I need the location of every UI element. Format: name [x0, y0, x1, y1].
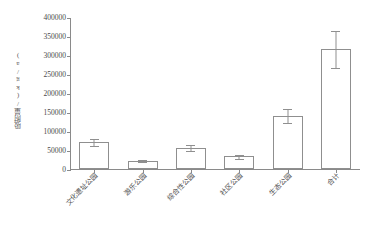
- y-axis-tick-mark: [67, 132, 71, 133]
- error-bar-cap-upper: [90, 139, 99, 140]
- x-axis-category-label: 文化遗址公园: [9, 172, 100, 230]
- error-bar-cap-lower: [138, 162, 147, 163]
- x-axis-category-labels: 文化遗址公园游乐公园综合性公园社区公园生态公园合计: [70, 172, 360, 228]
- error-bar: [235, 155, 244, 160]
- y-axis-tick-mark: [67, 56, 71, 57]
- error-bar-cap-upper: [138, 160, 147, 161]
- y-axis-tick-mark: [67, 37, 71, 38]
- y-axis-tick-label: 150000: [44, 109, 67, 117]
- error-bar-line: [287, 109, 288, 123]
- error-bar-cap-lower: [235, 159, 244, 160]
- error-bar-cap-lower: [331, 68, 340, 69]
- error-bar-cap-lower: [90, 146, 99, 147]
- y-axis-tick-mark: [67, 94, 71, 95]
- y-axis-tick-labels: 0500001000001500002000002500003000003500…: [26, 18, 66, 170]
- error-bar-cap-lower: [186, 151, 195, 152]
- y-axis-tick-mark: [67, 170, 71, 171]
- y-axis-tick-mark: [67, 151, 71, 152]
- plot-area: [70, 18, 360, 170]
- error-bar-line: [335, 31, 336, 69]
- error-bar-cap-upper: [283, 109, 292, 110]
- error-bar: [283, 109, 292, 123]
- error-bar-cap-upper: [235, 155, 244, 156]
- error-bar-cap-lower: [283, 123, 292, 124]
- error-bar-cap-upper: [331, 31, 340, 32]
- x-axis-line: [70, 169, 360, 170]
- y-axis-tick-label: 100000: [44, 128, 67, 136]
- bar-chart: 吸附量/(kg/a) 05000010000015000020000025000…: [0, 0, 388, 230]
- y-axis-tick-label: 250000: [44, 71, 67, 79]
- y-axis-tick-label: 400000: [44, 14, 67, 22]
- y-axis-tick-label: 350000: [44, 33, 67, 41]
- error-bar: [90, 139, 99, 147]
- bar: [273, 116, 303, 169]
- error-bar: [186, 145, 195, 153]
- y-axis-tick-mark: [67, 75, 71, 76]
- y-axis-tick-mark: [67, 113, 71, 114]
- y-axis-tick-mark: [67, 18, 71, 19]
- y-axis-tick-label: 0: [62, 166, 66, 174]
- error-bar: [138, 160, 147, 163]
- error-bar: [331, 31, 340, 69]
- y-axis-tick-label: 50000: [47, 147, 66, 155]
- error-bar-cap-upper: [186, 145, 195, 146]
- y-axis-tick-label: 200000: [44, 90, 67, 98]
- y-axis-tick-label: 300000: [44, 52, 67, 60]
